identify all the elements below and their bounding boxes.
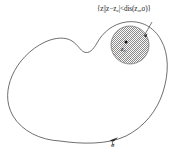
set-notation-label: {z||z−z₀|<dis(z₀,σ)} bbox=[97, 6, 151, 13]
hatched-open-disk bbox=[108, 26, 152, 70]
math-figure: {z||z−z₀|<dis(z₀,σ)} z₀ σ bbox=[0, 0, 186, 158]
center-point-dot bbox=[125, 41, 128, 44]
sigma-curve-label: σ bbox=[111, 142, 114, 149]
set-label-leader-line bbox=[144, 22, 152, 36]
figure-canvas bbox=[0, 0, 186, 158]
center-point-label: z₀ bbox=[121, 46, 126, 52]
